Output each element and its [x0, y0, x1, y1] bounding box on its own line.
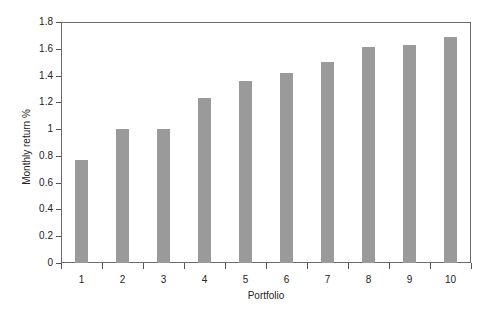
y-tick-label: 0.4: [13, 204, 53, 214]
x-tick-mark: [225, 263, 226, 269]
bar-chart: 00.20.40.60.811.21.41.61.8 12345678910 P…: [0, 0, 491, 313]
bar-portfolio-1: [75, 160, 88, 263]
y-tick-label: 1.2: [13, 97, 53, 107]
y-tick-label: 1.6: [13, 44, 53, 54]
y-tick-mark: [56, 236, 61, 237]
x-tick-label: 1: [67, 275, 97, 285]
bar-portfolio-9: [403, 45, 416, 263]
x-tick-label: 5: [231, 275, 261, 285]
y-tick-label: 1: [13, 124, 53, 134]
x-tick-label: 2: [108, 275, 138, 285]
x-tick-mark: [266, 263, 267, 269]
y-axis-title: Monthly return %: [21, 87, 33, 207]
x-tick-mark: [471, 263, 472, 269]
x-tick-label: 7: [313, 275, 343, 285]
bar-portfolio-10: [444, 37, 457, 263]
y-tick-mark: [56, 209, 61, 210]
y-tick-mark: [56, 156, 61, 157]
bar-portfolio-3: [157, 129, 170, 263]
x-tick-mark: [61, 263, 62, 269]
x-tick-mark: [307, 263, 308, 269]
x-tick-mark: [102, 263, 103, 269]
x-tick-label: 9: [395, 275, 425, 285]
x-tick-mark: [430, 263, 431, 269]
x-tick-mark: [143, 263, 144, 269]
bar-portfolio-8: [362, 47, 375, 263]
bar-portfolio-6: [280, 73, 293, 263]
y-tick-mark: [56, 102, 61, 103]
y-tick-label: 0: [13, 258, 53, 268]
bar-portfolio-4: [198, 98, 211, 263]
bar-portfolio-7: [321, 62, 334, 263]
y-tick-label: 0.6: [13, 178, 53, 188]
y-tick-mark: [56, 76, 61, 77]
y-tick-mark: [56, 22, 61, 23]
y-tick-mark: [56, 183, 61, 184]
y-tick-label: 1.4: [13, 71, 53, 81]
x-tick-mark: [184, 263, 185, 269]
x-axis-title: Portfolio: [216, 290, 316, 302]
x-tick-label: 10: [436, 275, 466, 285]
x-tick-label: 3: [149, 275, 179, 285]
y-tick-label: 1.8: [13, 17, 53, 27]
y-tick-label: 0.2: [13, 231, 53, 241]
bar-portfolio-2: [116, 129, 129, 263]
y-tick-label: 0.8: [13, 151, 53, 161]
x-tick-mark: [389, 263, 390, 269]
x-tick-mark: [348, 263, 349, 269]
x-tick-label: 4: [190, 275, 220, 285]
y-tick-mark: [56, 129, 61, 130]
bar-portfolio-5: [239, 81, 252, 263]
x-tick-label: 8: [354, 275, 384, 285]
x-tick-label: 6: [272, 275, 302, 285]
y-tick-mark: [56, 49, 61, 50]
